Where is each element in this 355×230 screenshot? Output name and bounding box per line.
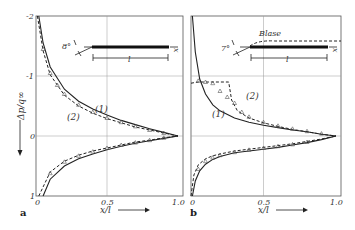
panel-a-grid [36, 16, 183, 196]
y-tick-label: 1 [30, 192, 35, 201]
data-point-triangle [211, 156, 215, 160]
angle-arrow-a [74, 40, 76, 45]
y-tick-label: 0 [30, 132, 35, 141]
data-point-triangle [218, 89, 222, 93]
curve-label-b-2: (2) [246, 91, 259, 101]
panel-a-frame [36, 16, 183, 196]
panel-a-inset-diagram: 8° l x [62, 40, 181, 64]
angle-label-a: 8° [62, 42, 71, 51]
flow-direction-line-a [75, 47, 92, 55]
x-tick-label: 0 [35, 198, 40, 207]
length-label-b: l [286, 55, 289, 64]
data-point-triangle [233, 101, 237, 105]
x-tick-label: 0 [190, 198, 195, 207]
data-point-triangle [240, 110, 244, 114]
series-line-1-lower [43, 136, 178, 196]
x-tick-label: 1.0 [172, 198, 185, 207]
panel-label-b: b [190, 207, 197, 218]
panel-b: 00.51.0 7° Blase l x (1) (2) b x/l [190, 16, 343, 218]
series-line-2-lower [39, 136, 178, 196]
panel-a: 00.51.0-2-101 8° l x (1) (2) a x/l [20, 12, 185, 218]
curve-label-a-1: (1) [95, 104, 108, 114]
y-tick-label: -2 [26, 12, 34, 21]
data-point-triangle [196, 167, 200, 171]
curve-label-a-2: (2) [67, 112, 80, 122]
x-axis-label-a: x/l [100, 205, 111, 215]
angle-label-b: 7° [221, 44, 230, 53]
x-tick-label: 1.0 [330, 198, 343, 207]
panel-label-a: a [20, 207, 27, 218]
x-axis-arrowhead-b [303, 208, 308, 213]
y-tick-label: -1 [26, 72, 34, 81]
x-axis-arrowhead-a [145, 208, 150, 213]
angle-arrow-b [232, 40, 234, 45]
panel-b-inset-diagram: 7° Blase l x [221, 29, 341, 64]
bubble-label: Blase [258, 29, 281, 38]
curve-label-b-1: (1) [212, 109, 225, 119]
y-axis-label: Δp/q∞ [16, 91, 26, 121]
flow-direction-line-b [233, 47, 250, 55]
pressure-distribution-figure: 00.51.0-2-101 8° l x (1) (2) a x/l 00.51… [0, 0, 355, 230]
data-point-triangle [91, 150, 95, 154]
series-line-1-lower [192, 136, 336, 196]
y-axis-label-group: Δp/q∞ [16, 91, 26, 156]
data-point-triangle [225, 95, 229, 99]
x-axis-label-b: x/l [258, 205, 269, 215]
y-axis-arrowhead [18, 150, 23, 156]
length-label-a: l [128, 55, 131, 64]
x-label-b: x [331, 48, 340, 53]
x-label-a: x [172, 48, 181, 53]
